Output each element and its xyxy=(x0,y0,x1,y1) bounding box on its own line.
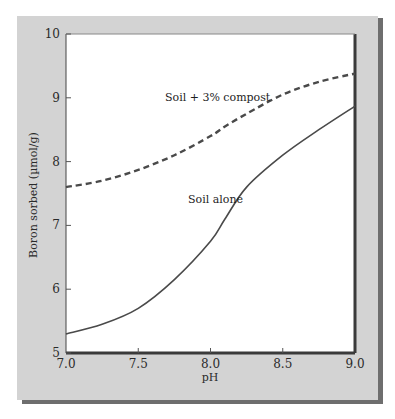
y-tick-label: 7 xyxy=(52,218,60,232)
y-tick-label: 6 xyxy=(52,282,60,296)
y-axis-label: Boron sorbed (µmol/g) xyxy=(27,132,40,258)
x-axis-label: pH xyxy=(202,371,219,384)
x-tick-label: 9.0 xyxy=(345,357,364,371)
y-tick-label: 9 xyxy=(52,91,60,105)
series-label-compost: Soil + 3% compost xyxy=(165,91,271,104)
chart-svg: 5678910 7.07.58.08.59.0 Soil + 3% compos… xyxy=(0,0,395,419)
x-tick-label: 8.5 xyxy=(273,357,292,371)
y-tick-label: 8 xyxy=(52,155,60,169)
x-tick-label: 7.0 xyxy=(56,357,75,371)
x-tick-label: 7.5 xyxy=(129,357,148,371)
series-label-soil-alone: Soil alone xyxy=(188,193,243,206)
x-tick-label: 8.0 xyxy=(201,357,220,371)
y-tick-label: 10 xyxy=(45,27,60,41)
